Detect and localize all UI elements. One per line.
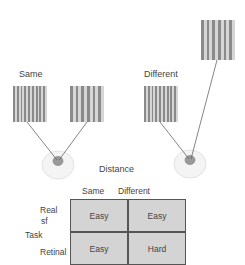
row-axis-label: Task (25, 230, 42, 240)
distance-label: Distance (99, 164, 134, 174)
cell-real-same: Easy (70, 199, 128, 232)
same-label: Same (19, 69, 43, 79)
different-label: Different (144, 69, 178, 79)
cell-real-different: Easy (128, 199, 186, 232)
row-header-real-sf: Real sf (40, 205, 57, 227)
grating-stripe (176, 86, 178, 122)
grating-different-far (201, 20, 235, 60)
grating-stripe (101, 86, 104, 122)
cell-retinal-same: Easy (70, 232, 128, 265)
grating-different-near (144, 86, 178, 122)
pupil-same (53, 157, 63, 166)
col-header-same: Same (82, 186, 104, 196)
col-header-different: Different (118, 186, 150, 196)
grating-same-near (13, 86, 47, 122)
difficulty-table: Easy Easy Easy Hard (70, 199, 186, 256)
cell-retinal-different: Hard (128, 232, 186, 265)
grating-stripe (232, 20, 235, 60)
grating-stripe (45, 86, 47, 122)
row-header-retinal: Retinal (40, 247, 66, 257)
grating-same-far (70, 86, 104, 122)
pupil-different (185, 156, 195, 165)
